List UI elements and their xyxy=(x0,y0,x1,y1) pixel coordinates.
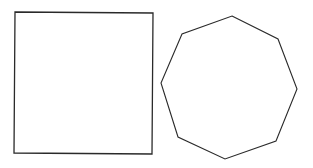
square-shape xyxy=(14,12,153,154)
diagram-canvas xyxy=(0,0,313,168)
octagon-shape xyxy=(161,16,297,159)
